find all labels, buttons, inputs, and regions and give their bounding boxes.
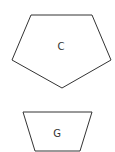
diagram-canvas: C G — [0, 0, 115, 152]
pentagon-label: C — [58, 41, 65, 52]
trapezoid-label: G — [53, 128, 61, 139]
